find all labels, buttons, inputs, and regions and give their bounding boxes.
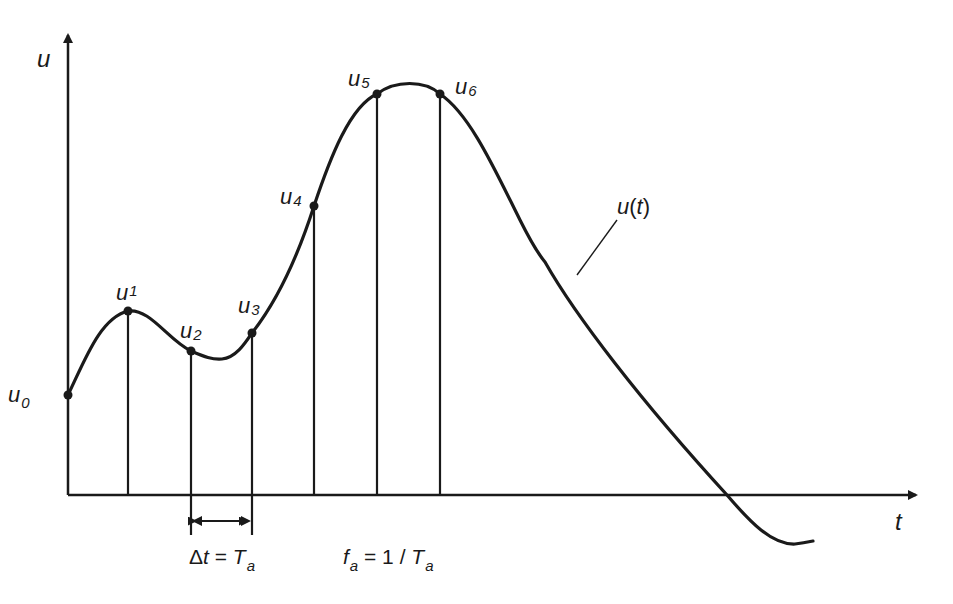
sample-dot-u2 [187,347,196,356]
curve-label-paren-open: ( [629,194,636,219]
label-u0-base: u [8,382,20,407]
label-u1: u1 [116,282,138,304]
sample-dot-u1 [124,307,133,316]
interval-formula: Δt = Ta [189,546,255,567]
label-u1-base: u [116,280,128,305]
label-u6-index: 6 [468,82,476,99]
frequency-formula-lhs: f [343,545,349,568]
label-u6-base: u [455,74,467,99]
sample-dot-u6 [436,90,445,99]
label-u3-index: 3 [251,301,259,318]
label-u3: u3 [238,295,260,317]
label-u4: u4 [280,186,302,208]
label-u1-index: 1 [129,282,137,299]
frequency-formula-rhs-sub: a [425,557,433,574]
sample-stems [128,94,440,535]
frequency-formula-eq: = 1 / [358,545,411,568]
interval-arrow-right-head [241,516,251,526]
curve-label-leader [577,220,617,275]
label-u2-base: u [180,318,192,343]
interval-arrow-left-head [192,516,202,526]
y-axis-label: u [37,47,50,71]
label-u5: u5 [348,68,370,90]
label-u4-base: u [280,184,292,209]
curve-label: u(t) [617,196,650,218]
label-u0-index: 0 [21,394,29,411]
x-axis-label: t [895,510,902,534]
sample-dot-u4 [310,202,319,211]
interval-formula-delta: Δ [189,545,203,568]
curve-label-paren-close: ) [643,194,650,219]
label-u2-index: 2 [193,326,201,343]
interval-formula-eq: = [209,545,233,568]
frequency-formula-rhs: T [411,545,424,568]
sample-dot-u3 [248,329,257,338]
label-u5-base: u [348,66,360,91]
interval-formula-rhs-sub: a [247,557,255,574]
label-u6: u6 [455,76,477,98]
label-u2: u2 [180,320,202,342]
interval-formula-rhs: T [233,545,246,568]
frequency-formula-lhs-sub: a [350,557,358,574]
curve-label-base: u [617,194,629,219]
sample-dot-u5 [373,90,382,99]
label-u3-base: u [238,293,250,318]
label-u4-index: 4 [293,192,301,209]
label-u5-index: 5 [361,74,369,91]
frequency-formula: fa = 1 / Ta [343,546,433,567]
label-u0: u0 [8,384,30,406]
sample-dot-u0 [64,391,73,400]
sample-points [64,90,445,400]
